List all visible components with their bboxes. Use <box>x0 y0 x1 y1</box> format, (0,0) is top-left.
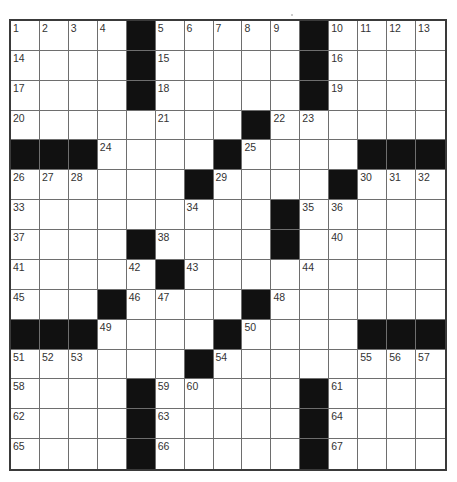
answer-cell[interactable] <box>329 350 358 380</box>
answer-cell[interactable] <box>358 230 387 260</box>
answer-cell[interactable] <box>69 260 98 290</box>
answer-cell[interactable] <box>156 170 185 200</box>
answer-cell[interactable] <box>358 260 387 290</box>
answer-cell[interactable]: 7 <box>214 21 243 51</box>
answer-cell[interactable] <box>242 439 271 469</box>
answer-cell[interactable]: 64 <box>329 409 358 439</box>
answer-cell[interactable] <box>214 81 243 111</box>
answer-cell[interactable]: 42 <box>127 260 156 290</box>
answer-cell[interactable] <box>300 230 329 260</box>
answer-cell[interactable] <box>358 200 387 230</box>
answer-cell[interactable] <box>242 230 271 260</box>
answer-cell[interactable] <box>271 350 300 380</box>
answer-cell[interactable] <box>156 200 185 230</box>
answer-cell[interactable] <box>40 111 69 141</box>
answer-cell[interactable] <box>185 111 214 141</box>
answer-cell[interactable]: 40 <box>329 230 358 260</box>
answer-cell[interactable]: 27 <box>40 170 69 200</box>
answer-cell[interactable]: 3 <box>69 21 98 51</box>
answer-cell[interactable] <box>40 51 69 81</box>
answer-cell[interactable] <box>98 379 127 409</box>
answer-cell[interactable] <box>358 51 387 81</box>
answer-cell[interactable] <box>358 439 387 469</box>
answer-cell[interactable]: 65 <box>11 439 40 469</box>
answer-cell[interactable] <box>387 51 416 81</box>
answer-cell[interactable]: 56 <box>387 350 416 380</box>
answer-cell[interactable] <box>127 170 156 200</box>
answer-cell[interactable] <box>271 320 300 350</box>
answer-cell[interactable] <box>271 170 300 200</box>
answer-cell[interactable]: 59 <box>156 379 185 409</box>
answer-cell[interactable] <box>69 439 98 469</box>
answer-cell[interactable] <box>127 320 156 350</box>
answer-cell[interactable] <box>416 379 445 409</box>
answer-cell[interactable] <box>185 409 214 439</box>
answer-cell[interactable] <box>387 260 416 290</box>
answer-cell[interactable]: 61 <box>329 379 358 409</box>
answer-cell[interactable] <box>271 439 300 469</box>
answer-cell[interactable]: 50 <box>242 320 271 350</box>
answer-cell[interactable]: 25 <box>242 140 271 170</box>
answer-cell[interactable]: 53 <box>69 350 98 380</box>
answer-cell[interactable]: 17 <box>11 81 40 111</box>
answer-cell[interactable] <box>185 51 214 81</box>
answer-cell[interactable] <box>185 439 214 469</box>
answer-cell[interactable]: 12 <box>387 21 416 51</box>
answer-cell[interactable]: 2 <box>40 21 69 51</box>
answer-cell[interactable] <box>300 140 329 170</box>
answer-cell[interactable]: 13 <box>416 21 445 51</box>
answer-cell[interactable] <box>98 350 127 380</box>
answer-cell[interactable] <box>40 379 69 409</box>
answer-cell[interactable] <box>329 140 358 170</box>
answer-cell[interactable]: 20 <box>11 111 40 141</box>
answer-cell[interactable] <box>40 290 69 320</box>
answer-cell[interactable] <box>127 350 156 380</box>
answer-cell[interactable]: 6 <box>185 21 214 51</box>
answer-cell[interactable] <box>40 81 69 111</box>
answer-cell[interactable] <box>40 230 69 260</box>
answer-cell[interactable] <box>242 260 271 290</box>
answer-cell[interactable] <box>300 170 329 200</box>
answer-cell[interactable] <box>185 290 214 320</box>
answer-cell[interactable]: 32 <box>416 170 445 200</box>
answer-cell[interactable]: 41 <box>11 260 40 290</box>
answer-cell[interactable] <box>127 200 156 230</box>
answer-cell[interactable] <box>242 81 271 111</box>
answer-cell[interactable] <box>416 111 445 141</box>
answer-cell[interactable] <box>214 200 243 230</box>
answer-cell[interactable]: 15 <box>156 51 185 81</box>
answer-cell[interactable] <box>271 51 300 81</box>
answer-cell[interactable] <box>98 81 127 111</box>
answer-cell[interactable]: 22 <box>271 111 300 141</box>
answer-cell[interactable] <box>69 200 98 230</box>
answer-cell[interactable] <box>185 230 214 260</box>
answer-cell[interactable]: 55 <box>358 350 387 380</box>
answer-cell[interactable]: 10 <box>329 21 358 51</box>
answer-cell[interactable]: 28 <box>69 170 98 200</box>
answer-cell[interactable] <box>98 230 127 260</box>
answer-cell[interactable]: 23 <box>300 111 329 141</box>
answer-cell[interactable]: 52 <box>40 350 69 380</box>
answer-cell[interactable] <box>271 81 300 111</box>
answer-cell[interactable]: 26 <box>11 170 40 200</box>
answer-cell[interactable]: 4 <box>98 21 127 51</box>
answer-cell[interactable] <box>214 379 243 409</box>
answer-cell[interactable] <box>242 350 271 380</box>
answer-cell[interactable] <box>271 260 300 290</box>
answer-cell[interactable] <box>329 290 358 320</box>
answer-cell[interactable] <box>242 200 271 230</box>
answer-cell[interactable]: 18 <box>156 81 185 111</box>
answer-cell[interactable] <box>387 230 416 260</box>
answer-cell[interactable] <box>358 379 387 409</box>
answer-cell[interactable] <box>98 260 127 290</box>
answer-cell[interactable] <box>416 230 445 260</box>
answer-cell[interactable] <box>69 379 98 409</box>
answer-cell[interactable]: 48 <box>271 290 300 320</box>
answer-cell[interactable] <box>387 409 416 439</box>
answer-cell[interactable] <box>214 111 243 141</box>
answer-cell[interactable] <box>242 409 271 439</box>
answer-cell[interactable] <box>98 51 127 81</box>
answer-cell[interactable] <box>98 409 127 439</box>
answer-cell[interactable] <box>40 409 69 439</box>
answer-cell[interactable]: 9 <box>271 21 300 51</box>
